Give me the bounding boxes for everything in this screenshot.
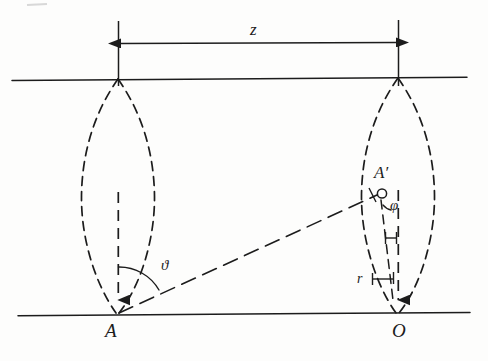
label-point-o: O (392, 321, 406, 340)
angle-arc-theta (119, 267, 160, 290)
offset-line-dashed (381, 200, 393, 300)
label-distance-z: z (250, 21, 257, 38)
label-point-a-prime: A′ (374, 164, 388, 181)
label-radius-r: r (357, 272, 362, 286)
point-marker-a-prime (377, 189, 386, 198)
diagram-canvas (0, 0, 488, 361)
figure-diagram: z A O A′ φ r ϑ (0, 0, 488, 361)
dimension-tick-upper-inner (385, 232, 397, 244)
lower-baseline (18, 313, 470, 316)
label-angle-phi: φ (390, 198, 398, 213)
tick-mark-aprime (369, 188, 376, 202)
label-angle-theta: ϑ (161, 258, 168, 273)
label-point-a: A (105, 321, 117, 340)
paper-smudge (27, 4, 47, 5)
sight-line-A-to-Aprime (119, 195, 378, 314)
dimension-arrow-z (121, 43, 396, 44)
